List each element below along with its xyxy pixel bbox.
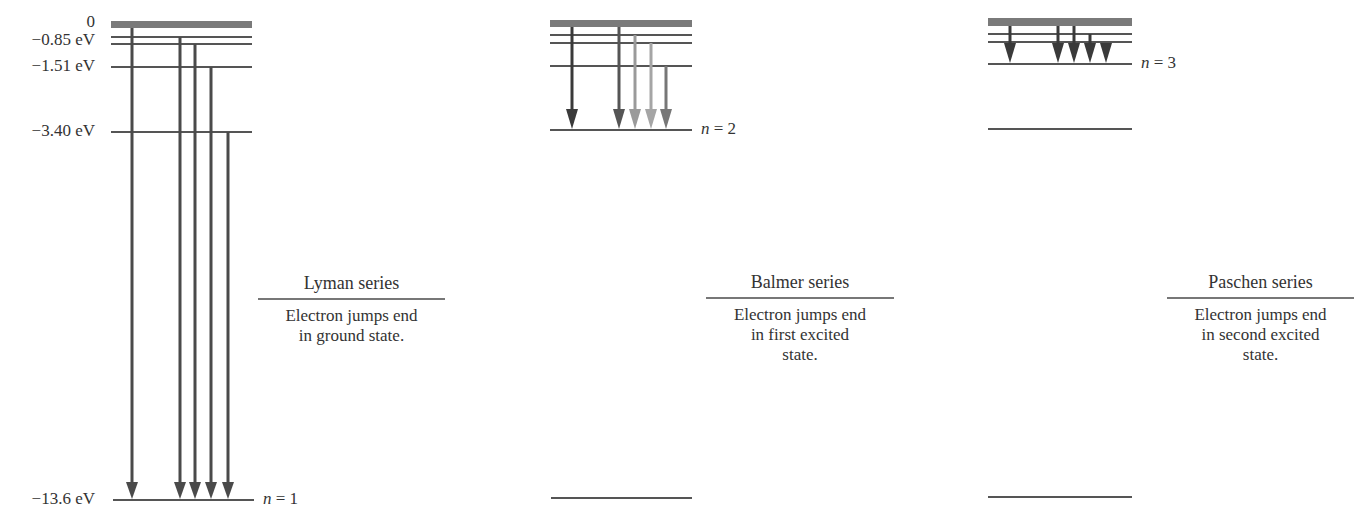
lyman-transition-arrows [126, 28, 234, 499]
energy-label-0: 0 [0, 12, 95, 32]
n1-label: n = 1 [263, 489, 298, 509]
paschen-levels [988, 18, 1132, 497]
balmer-description: Electron jumps end in first excited stat… [706, 305, 894, 365]
paschen-caption: Paschen series Electron jumps end in sec… [1167, 271, 1354, 365]
n2-label: n = 2 [701, 119, 736, 139]
paschen-series-title: Paschen series [1167, 271, 1354, 299]
energy-label-3.40: −3.40 eV [0, 121, 95, 141]
n3-label: n = 3 [1141, 53, 1176, 73]
paschen-description: Electron jumps end in second excited sta… [1167, 305, 1354, 365]
lyman-series-title: Lyman series [258, 272, 445, 300]
paschen-transition-arrows [1004, 26, 1112, 63]
energy-label-1.51: −1.51 eV [0, 56, 95, 76]
balmer-caption: Balmer series Electron jumps end in firs… [706, 271, 894, 365]
energy-label-13.6: −13.6 eV [0, 489, 95, 509]
lyman-caption: Lyman series Electron jumps end in groun… [258, 272, 445, 346]
balmer-series-title: Balmer series [706, 271, 894, 299]
lyman-description: Electron jumps end in ground state. [258, 306, 445, 346]
energy-label-0.85: −0.85 eV [0, 30, 95, 50]
energy-level-diagram [0, 0, 1358, 521]
